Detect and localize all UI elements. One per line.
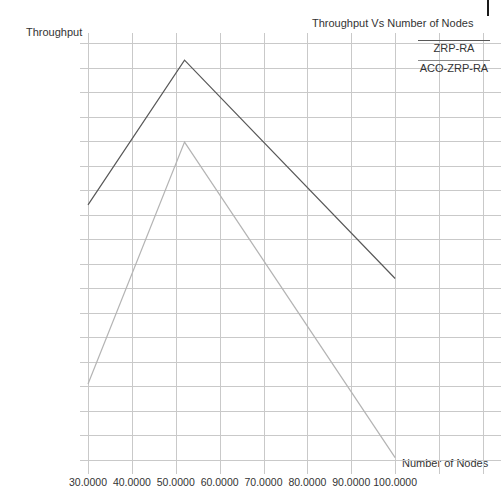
chart-legend: ZRP-RAACO-ZRP-RA [408,40,500,80]
legend-label: ACO-ZRP-RA [408,62,500,74]
legend-entry[interactable]: ZRP-RA [408,40,500,54]
page-edge-artifact [487,0,489,16]
x-tick-label: 100.0000 [365,477,425,488]
legend-line-swatch [418,60,490,61]
legend-line-swatch [418,40,490,41]
chart-figure: Throughput Vs Number of Nodes Throughput… [0,0,501,502]
legend-entry[interactable]: ACO-ZRP-RA [408,60,500,74]
legend-label: ZRP-RA [408,42,500,54]
